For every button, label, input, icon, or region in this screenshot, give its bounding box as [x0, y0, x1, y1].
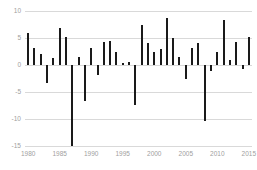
- bar: [166, 18, 168, 65]
- bar: [52, 58, 54, 65]
- x-axis-tick-label: 2015: [242, 150, 256, 157]
- bar: [216, 52, 218, 66]
- y-axis-tick-label: -10: [2, 115, 21, 122]
- bar: [178, 57, 180, 65]
- bar: [33, 48, 35, 65]
- bar: [103, 42, 105, 65]
- bar: [172, 38, 174, 65]
- bar: [40, 54, 42, 65]
- bar: [223, 20, 225, 65]
- bar: [71, 65, 73, 146]
- bar: [235, 42, 237, 65]
- bar: [109, 41, 111, 65]
- bar: [160, 49, 162, 65]
- y-axis-tick-label: 5: [2, 34, 21, 41]
- x-axis-tick-label: 1985: [52, 150, 66, 157]
- bar: [248, 37, 250, 65]
- bar: [78, 57, 80, 65]
- x-axis-tick-label: 2010: [210, 150, 224, 157]
- x-axis-tick-label: 1990: [84, 150, 98, 157]
- bar: [141, 25, 143, 66]
- x-axis-tick-label: 1980: [21, 150, 35, 157]
- y-axis-tick-label: -15: [2, 142, 21, 149]
- bar: [128, 62, 130, 65]
- bar: [90, 48, 92, 65]
- bar: [134, 65, 136, 105]
- y-axis-labels: 1050-5-10-15: [0, 0, 257, 170]
- bar: [59, 28, 61, 65]
- x-axis-tick-label: 2005: [179, 150, 193, 157]
- y-axis-tick-label: -5: [2, 88, 21, 95]
- bar: [84, 65, 86, 101]
- bar: [210, 65, 212, 71]
- bar: [65, 37, 67, 65]
- bar: [27, 33, 29, 65]
- x-axis-tick-label: 1995: [116, 150, 130, 157]
- bar: [147, 43, 149, 65]
- bar-chart: 1050-5-10-15 198019851990199520002005201…: [0, 0, 257, 170]
- bar: [46, 65, 48, 83]
- bar: [97, 65, 99, 75]
- bar: [191, 48, 193, 65]
- bar: [204, 65, 206, 121]
- bar: [242, 65, 244, 69]
- bar: [197, 43, 199, 65]
- bar: [122, 63, 124, 65]
- y-axis-tick-label: 0: [2, 61, 21, 68]
- bar: [153, 52, 155, 65]
- bar: [115, 52, 117, 65]
- x-axis-tick-label: 2000: [147, 150, 161, 157]
- bar: [185, 65, 187, 79]
- y-axis-tick-label: 10: [2, 7, 21, 14]
- bar: [229, 60, 231, 65]
